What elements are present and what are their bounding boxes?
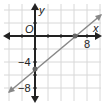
y-tick-label-neg8: −8 [18,82,31,94]
x-tick-label-8: 8 [84,38,90,50]
y-intercept-point [33,67,38,72]
y-tick-label-neg4: −4 [18,56,31,68]
x-axis-label: x [92,22,99,34]
x-intercept-point [73,34,78,39]
origin-label: O [25,23,34,35]
coordinate-plane: y x O 8 −4 −8 [0,0,107,111]
